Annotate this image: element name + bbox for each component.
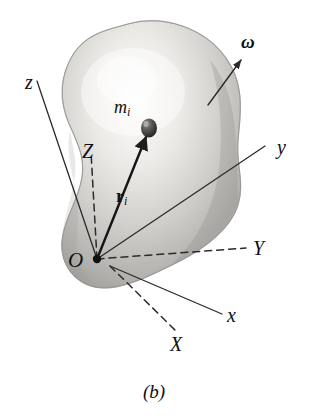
axis-label-y-lower: y: [277, 137, 286, 157]
axis-label-X-upper: X: [170, 334, 182, 354]
origin-point-dot: [93, 255, 101, 263]
axis-label-x-lower: x: [227, 305, 236, 325]
axis-label-Y-upper: Y: [253, 238, 264, 258]
figure-container: z y x Z Y X O ω mi ri (b): [0, 0, 314, 418]
position-vector-subscript: i: [124, 194, 127, 208]
mass-element-label: mi: [114, 98, 130, 118]
figure-caption: (b): [143, 382, 165, 401]
axis-label-Z-upper: Z: [82, 141, 93, 161]
mass-element-sphere: [141, 119, 157, 138]
origin-label-O: O: [68, 250, 83, 271]
mass-element-symbol: m: [114, 97, 127, 117]
axis-line-x: [110, 266, 222, 314]
figure-svg: [0, 0, 314, 418]
mass-element-subscript: i: [127, 105, 130, 119]
position-vector-label: ri: [116, 187, 127, 207]
position-vector-symbol: r: [116, 186, 124, 206]
angular-velocity-label-omega: ω: [241, 32, 255, 51]
axis-label-z-lower: z: [25, 72, 33, 92]
